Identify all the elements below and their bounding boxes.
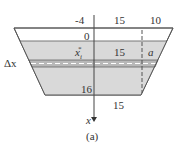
figure-caption: (a) [86,131,98,142]
label-top-coord: -4 [75,15,84,26]
label-water-level: 0 [84,31,90,42]
axis-label-x: x [86,115,91,126]
label-top-middle-width: 15 [114,15,125,26]
label-top-right-width: 10 [150,15,161,26]
label-delta-x: Δx [4,58,17,69]
label-middle-width: 15 [114,47,125,58]
label-sample-point: xi* [75,46,85,61]
label-bottom-depth: 16 [81,84,92,95]
label-side-var: a [148,47,154,58]
label-bottom-width: 15 [113,100,124,111]
